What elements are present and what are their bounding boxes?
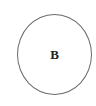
node-b-ellipse: B xyxy=(17,14,92,95)
node-b-label: B xyxy=(18,15,91,94)
